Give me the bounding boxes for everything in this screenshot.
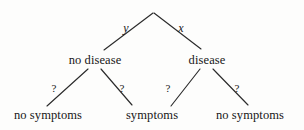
tree-edge-no-disease-to-symptoms	[101, 69, 132, 105]
edge-label-disease-to-no-symptoms: ?	[235, 82, 240, 94]
edge-label-no-disease-to-symptoms: ?	[120, 82, 125, 94]
edge-label-disease-to-symptoms: ?	[166, 82, 171, 94]
tree-node-no-symptoms-right: no symptoms	[216, 108, 284, 122]
tree-node-no-disease: no disease	[69, 53, 122, 67]
tree-edge-disease-to-no-symptoms	[213, 69, 248, 105]
edge-label-root-to-no-disease: y	[123, 22, 128, 34]
edge-label-root-to-disease: x	[178, 22, 183, 34]
tree-node-disease: disease	[189, 53, 226, 67]
tree-node-symptoms: symptoms	[126, 108, 178, 122]
edge-label-no-disease-to-no-symptoms: ?	[52, 82, 57, 94]
decision-tree-diagram: no diseasediseaseno symptomssymptomsno s…	[0, 0, 304, 130]
tree-edge-disease-to-symptoms	[171, 69, 200, 106]
tree-node-no-symptoms-left: no symptoms	[14, 108, 82, 122]
